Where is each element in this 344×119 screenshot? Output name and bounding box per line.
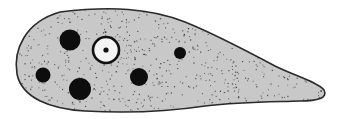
granule: [138, 7, 139, 8]
granule: [189, 36, 190, 37]
granule: [306, 109, 307, 110]
granule: [318, 15, 319, 16]
granule: [120, 27, 121, 28]
granule: [137, 108, 138, 109]
granule: [222, 13, 223, 14]
granule: [170, 105, 171, 106]
granule: [149, 50, 150, 51]
granule: [77, 16, 78, 17]
granule: [195, 35, 196, 36]
granule: [177, 68, 178, 69]
granule: [296, 106, 297, 107]
granule: [125, 73, 126, 74]
granule: [39, 62, 40, 63]
granule: [209, 80, 210, 81]
granule: [214, 106, 215, 107]
granule: [321, 91, 322, 92]
granule: [149, 48, 150, 49]
granule: [225, 79, 226, 80]
granule: [311, 108, 312, 109]
granule: [171, 37, 172, 38]
granule: [254, 13, 255, 14]
granule: [214, 6, 215, 7]
granule: [124, 58, 125, 59]
cell-figure: [0, 0, 344, 119]
granule: [161, 86, 162, 87]
granule: [142, 49, 143, 50]
granule: [154, 46, 155, 47]
granule: [265, 106, 266, 107]
granule: [60, 51, 61, 52]
granule: [32, 59, 33, 60]
granule: [42, 114, 43, 115]
granule: [49, 113, 50, 114]
granule: [134, 59, 135, 60]
granule: [256, 86, 257, 87]
granule: [38, 87, 39, 88]
granule: [307, 32, 308, 33]
granule: [216, 96, 217, 97]
granule: [99, 94, 100, 95]
granule: [140, 8, 141, 9]
granule: [211, 67, 212, 68]
granule: [289, 29, 290, 30]
granule: [254, 21, 255, 22]
granule: [57, 101, 58, 102]
granule: [111, 75, 112, 76]
granule: [25, 7, 26, 8]
granule: [47, 46, 48, 47]
granule: [18, 88, 19, 89]
granule: [31, 46, 32, 47]
granule: [43, 111, 44, 112]
granule: [228, 98, 229, 99]
granule: [107, 94, 108, 95]
granule: [45, 105, 46, 106]
granule: [285, 53, 286, 54]
granule: [100, 107, 101, 108]
granule: [139, 51, 140, 52]
granule: [74, 13, 75, 14]
granule: [190, 17, 191, 18]
granule: [316, 52, 317, 53]
granule: [90, 67, 91, 68]
granule: [297, 108, 298, 109]
granule: [234, 91, 235, 92]
granule: [34, 21, 35, 22]
granule: [309, 65, 310, 66]
granule: [64, 53, 65, 54]
granule: [264, 74, 265, 75]
granule: [283, 54, 284, 55]
granule: [62, 103, 63, 104]
granule: [126, 58, 127, 59]
granule: [232, 83, 233, 84]
granule: [59, 66, 60, 67]
granule: [103, 105, 104, 106]
granule: [136, 41, 137, 42]
granule: [72, 104, 73, 105]
granule: [128, 45, 129, 46]
granule: [95, 73, 96, 74]
granule: [258, 15, 259, 16]
granule: [243, 37, 244, 38]
granule: [190, 39, 191, 40]
granule: [118, 62, 119, 63]
granule: [255, 8, 256, 9]
granule: [86, 58, 87, 59]
granule: [303, 108, 304, 109]
granule: [274, 95, 275, 96]
granule: [238, 96, 239, 97]
granule: [236, 10, 237, 11]
granule: [327, 101, 328, 102]
granule: [108, 22, 109, 23]
granule: [181, 11, 182, 12]
granule: [65, 62, 66, 63]
granule: [197, 101, 198, 102]
granule: [38, 28, 39, 29]
granule: [306, 14, 307, 15]
granule: [42, 55, 43, 56]
granule: [167, 60, 168, 61]
granule: [209, 99, 210, 100]
granule: [289, 55, 290, 56]
granule: [88, 15, 89, 16]
granule: [127, 113, 128, 114]
